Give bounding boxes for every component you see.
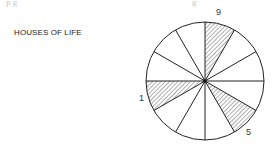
spoke-line — [154, 52, 205, 82]
spoke-line — [176, 30, 206, 81]
house-label-9: 9 — [216, 7, 221, 17]
houses-wheel — [0, 0, 275, 156]
house-label-1: 1 — [139, 93, 144, 103]
wheel-center-dot — [203, 79, 207, 83]
house-label-5: 5 — [246, 127, 251, 137]
